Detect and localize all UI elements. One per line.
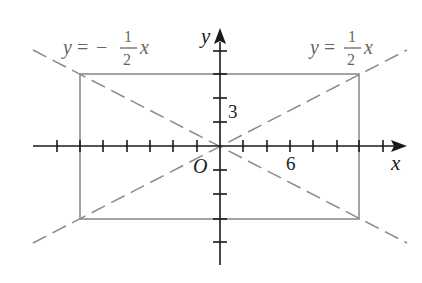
svg-text:y: y [61,36,72,59]
svg-text:=: = [324,36,335,58]
y-axis-arrow-icon [214,28,226,44]
svg-text:x: x [139,36,149,58]
x-tick-label-6: 6 [286,153,296,174]
y-tick-label-3: 3 [228,101,238,122]
hyperbola-asymptote-diagram: x y O 6 3 y = − 1 2 x y = 1 2 x [0,0,422,283]
equation-label-positive: y = 1 2 x [308,28,373,68]
origin-label: O [193,155,207,177]
svg-text:1: 1 [348,28,356,45]
svg-text:=: = [77,36,88,58]
svg-text:x: x [363,36,373,58]
svg-text:1: 1 [124,28,132,45]
equation-label-negative: y = − 1 2 x [61,28,149,68]
svg-text:−: − [96,36,107,58]
x-axis-label: x [390,151,401,175]
y-axis-label: y [199,24,211,48]
svg-text:2: 2 [347,51,355,68]
svg-text:y: y [308,36,319,59]
svg-text:2: 2 [123,51,131,68]
